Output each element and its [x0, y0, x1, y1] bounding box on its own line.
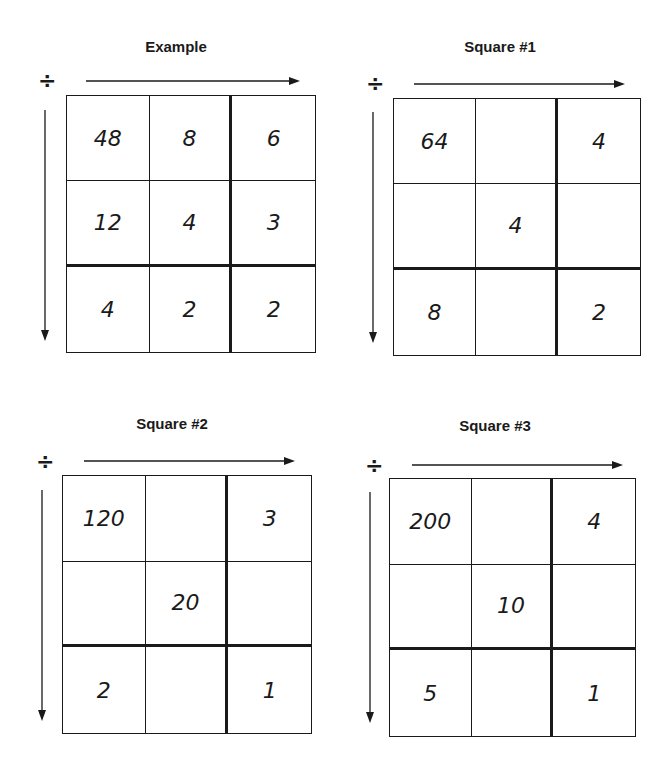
grid-cell: 48	[67, 96, 150, 181]
arrow-right-icon	[414, 79, 626, 89]
puzzle-title: Square #3	[459, 417, 531, 434]
grid-cell: 1	[228, 647, 311, 733]
grid-cell: 6	[232, 96, 315, 181]
grid-cell: 4	[553, 479, 635, 565]
puzzle-title: Square #1	[464, 38, 536, 55]
arrow-down-icon	[368, 112, 378, 344]
grid-cell: 4	[476, 184, 558, 269]
arrow-down-icon	[40, 110, 50, 342]
grid-cell: 64	[394, 99, 476, 184]
puzzle-title: Example	[145, 38, 207, 55]
grid-cell: 2	[558, 270, 640, 355]
answer-cell[interactable]	[472, 479, 554, 565]
grid-cell: 120	[63, 476, 146, 562]
answer-cell[interactable]	[146, 476, 229, 562]
answer-cell[interactable]	[553, 565, 635, 651]
grid-cell: 200	[390, 479, 472, 565]
answer-cell[interactable]	[558, 184, 640, 269]
divide-icon: ÷	[365, 455, 383, 477]
number-grid: 64 4 4 8 2	[393, 98, 641, 356]
grid-cell: 4	[150, 181, 233, 266]
arrow-right-icon	[412, 460, 624, 470]
divide-icon: ÷	[38, 70, 56, 92]
arrow-down-icon	[365, 492, 375, 724]
grid-cell: 4	[67, 267, 150, 352]
grid-cell: 3	[228, 476, 311, 562]
grid-cell: 10	[472, 565, 554, 651]
answer-cell[interactable]	[472, 650, 554, 736]
grid-cell: 20	[146, 562, 229, 648]
grid-cell: 3	[232, 181, 315, 266]
grid-cell: 1	[553, 650, 635, 736]
puzzle-title: Square #2	[136, 415, 208, 432]
grid-cell: 2	[63, 647, 146, 733]
answer-cell[interactable]	[394, 184, 476, 269]
answer-cell[interactable]	[228, 562, 311, 648]
answer-cell[interactable]	[390, 565, 472, 651]
number-grid: 48 8 6 12 4 3 4 2 2	[66, 95, 316, 353]
grid-cell: 8	[394, 270, 476, 355]
grid-cell: 2	[150, 267, 233, 352]
answer-cell[interactable]	[476, 270, 558, 355]
grid-cell: 4	[558, 99, 640, 184]
grid-cell: 8	[150, 96, 233, 181]
answer-cell[interactable]	[146, 647, 229, 733]
divide-icon: ÷	[36, 451, 54, 473]
answer-cell[interactable]	[476, 99, 558, 184]
arrow-right-icon	[84, 456, 296, 466]
grid-cell: 5	[390, 650, 472, 736]
arrow-right-icon	[86, 76, 301, 86]
divide-icon: ÷	[366, 73, 384, 95]
grid-cell: 12	[67, 181, 150, 266]
number-grid: 200 4 10 5 1	[389, 478, 636, 737]
number-grid: 120 3 20 2 1	[62, 475, 312, 734]
arrow-down-icon	[37, 490, 47, 722]
answer-cell[interactable]	[63, 562, 146, 648]
grid-cell: 2	[232, 267, 315, 352]
